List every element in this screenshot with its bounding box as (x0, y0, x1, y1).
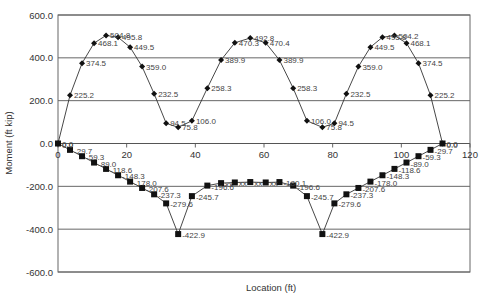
data-label: -245.7 (311, 193, 334, 202)
diamond-marker (428, 92, 434, 98)
data-label: 468.1 (410, 39, 431, 48)
y-tick-label: -200.0 (26, 181, 53, 192)
x-tick-label: 60 (259, 149, 270, 160)
square-marker (175, 231, 181, 237)
x-tick-label: 40 (190, 149, 201, 160)
y-tick-label: 200.0 (29, 95, 53, 106)
diamond-marker (91, 40, 97, 46)
square-marker (403, 160, 409, 166)
data-label: 374.5 (423, 59, 444, 68)
data-label: 0.0 (62, 141, 74, 150)
data-label: 449.5 (374, 43, 395, 52)
data-label: 232.5 (350, 90, 371, 99)
data-label: -279.6 (170, 200, 193, 209)
data-label: 495.8 (122, 33, 143, 42)
x-tick-label: 100 (393, 149, 409, 160)
square-marker (428, 147, 434, 153)
data-label: 232.5 (158, 90, 179, 99)
y-axis-title: Moment (ft kip) (3, 111, 14, 174)
data-label: -422.9 (326, 231, 349, 240)
square-marker (55, 141, 61, 147)
data-label: 258.3 (297, 84, 318, 93)
diamond-marker (204, 85, 210, 91)
diamond-marker (355, 64, 361, 70)
data-label: -196.6 (297, 183, 320, 192)
square-marker (416, 153, 422, 159)
square-marker (189, 193, 195, 199)
diamond-marker (163, 120, 169, 126)
data-label: 359.0 (146, 63, 167, 72)
data-labels: 0.0225.2374.5468.1504.8495.8449.5359.023… (62, 31, 458, 240)
data-label: 389.9 (283, 56, 304, 65)
square-marker (379, 172, 385, 178)
x-tick-label: 120 (462, 149, 478, 160)
square-marker (204, 183, 210, 189)
diamond-marker (79, 60, 85, 66)
data-label: 258.3 (211, 84, 232, 93)
diamond-marker (151, 91, 157, 97)
diamond-marker (304, 118, 310, 124)
data-label: 449.5 (134, 43, 155, 52)
x-tick-label: 0 (55, 149, 60, 160)
y-tick-label: 400.0 (29, 52, 53, 63)
data-label: 470.4 (270, 39, 291, 48)
moment-envelope-chart: 600.0400.0200.00.0-200.0-400.0-600.00204… (0, 0, 484, 301)
diamond-marker (343, 91, 349, 97)
x-tick-label: 20 (121, 149, 132, 160)
data-label: xx (225, 180, 233, 189)
y-tick-label: 0.0 (40, 138, 53, 149)
data-label: -422.9 (182, 231, 205, 240)
data-label: xx (239, 179, 247, 188)
diamond-marker (290, 85, 296, 91)
data-label: xx (254, 179, 262, 188)
diamond-marker (103, 32, 109, 38)
square-marker (263, 179, 269, 185)
diamond-marker (416, 60, 422, 66)
data-label: 0.0 (447, 141, 459, 150)
square-marker (304, 193, 310, 199)
square-marker (440, 141, 446, 147)
data-series (55, 32, 446, 237)
y-tick-label: 600.0 (29, 10, 53, 21)
data-label: 359.0 (362, 63, 383, 72)
data-label: 225.2 (435, 91, 456, 100)
square-marker (343, 191, 349, 197)
diamond-marker (139, 64, 145, 70)
x-tick-label: 80 (327, 149, 338, 160)
square-marker (355, 185, 361, 191)
x-axis-title: Location (ft) (246, 282, 296, 293)
square-marker (391, 166, 397, 172)
square-marker (319, 231, 325, 237)
square-marker (367, 179, 373, 185)
data-label: -279.6 (338, 200, 361, 209)
data-label: -237.3 (158, 191, 181, 200)
data-label: 94.5 (338, 119, 354, 128)
data-label: 468.1 (98, 39, 119, 48)
y-tick-label: -400.0 (26, 224, 53, 235)
data-label: 389.9 (225, 56, 246, 65)
y-tick-label: -600.0 (26, 267, 53, 278)
square-marker (163, 200, 169, 206)
data-label: 106.0 (196, 117, 217, 126)
data-label: 374.5 (86, 59, 107, 68)
chart-canvas: 600.0400.0200.00.0-200.0-400.0-600.00204… (0, 0, 484, 301)
data-label: xx (270, 179, 278, 188)
data-label: -245.7 (196, 193, 219, 202)
square-marker (247, 179, 253, 185)
data-label: 225.2 (74, 91, 95, 100)
diamond-marker (67, 92, 73, 98)
